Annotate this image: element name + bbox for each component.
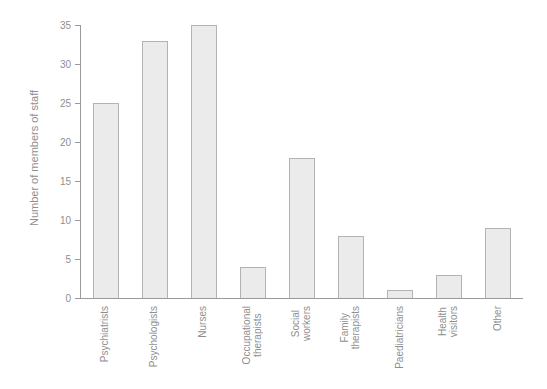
x-label-occupational-therapists: Occupational therapists	[241, 306, 263, 364]
bar-occupational-therapists	[240, 267, 266, 298]
bar-cell-health-visitors	[425, 25, 474, 298]
bar-cell-paediatricians	[376, 25, 425, 298]
bar-cell-other	[474, 25, 523, 298]
x-label-other: Other	[492, 306, 503, 331]
y-tick-label: 35	[45, 20, 71, 31]
y-tick-mark	[75, 64, 80, 65]
plot-area: 05101520253035	[80, 25, 523, 299]
y-axis-title: Number of members of staff	[28, 90, 40, 226]
x-axis-labels: PsychiatristsPsychologistsNursesOccupati…	[80, 306, 522, 389]
x-label-cell-nurses: Nurses	[178, 306, 227, 389]
bar-social-workers	[289, 158, 315, 298]
y-tick-label: 20	[45, 137, 71, 148]
y-tick-mark	[75, 259, 80, 260]
x-label-cell-occupational-therapists: Occupational therapists	[227, 306, 276, 389]
y-tick-label: 10	[45, 215, 71, 226]
y-tick-mark	[75, 220, 80, 221]
bars-container	[81, 25, 523, 298]
y-tick-mark	[75, 181, 80, 182]
y-tick-label: 15	[45, 176, 71, 187]
x-label-cell-psychologists: Psychologists	[129, 306, 178, 389]
x-label-social-workers: Social workers	[290, 306, 312, 341]
y-tick-mark	[75, 25, 80, 26]
bar-cell-nurses	[179, 25, 228, 298]
bar-psychiatrists	[93, 103, 119, 298]
bar-cell-psychiatrists	[81, 25, 130, 298]
x-label-cell-paediatricians: Paediatricians	[375, 306, 424, 389]
bar-cell-family-therapists	[327, 25, 376, 298]
x-label-family-therapists: Family therapists	[339, 306, 361, 349]
bar-cell-social-workers	[277, 25, 326, 298]
bar-nurses	[191, 25, 217, 298]
x-label-health-visitors: Health visitors	[437, 306, 459, 337]
bar-family-therapists	[338, 236, 364, 298]
x-label-cell-social-workers: Social workers	[276, 306, 325, 389]
x-label-paediatricians: Paediatricians	[394, 306, 405, 369]
x-label-cell-other: Other	[473, 306, 522, 389]
x-label-cell-health-visitors: Health visitors	[424, 306, 473, 389]
y-tick-label: 0	[45, 293, 71, 304]
x-label-nurses: Nurses	[197, 306, 208, 338]
bar-cell-psychologists	[130, 25, 179, 298]
y-tick-label: 30	[45, 59, 71, 70]
bar-paediatricians	[387, 290, 413, 298]
staff-bar-chart-figure: Number of members of staff 0510152025303…	[0, 0, 547, 389]
x-label-cell-family-therapists: Family therapists	[326, 306, 375, 389]
y-tick-mark	[75, 103, 80, 104]
y-tick-label: 25	[45, 98, 71, 109]
bar-other	[485, 228, 511, 298]
x-label-cell-psychiatrists: Psychiatrists	[80, 306, 129, 389]
bar-health-visitors	[436, 275, 462, 298]
bar-psychologists	[142, 41, 168, 298]
bar-cell-occupational-therapists	[228, 25, 277, 298]
y-tick-mark	[75, 298, 80, 299]
x-label-psychologists: Psychologists	[148, 306, 159, 367]
y-tick-mark	[75, 142, 80, 143]
x-label-psychiatrists: Psychiatrists	[99, 306, 110, 362]
y-tick-label: 5	[45, 254, 71, 265]
